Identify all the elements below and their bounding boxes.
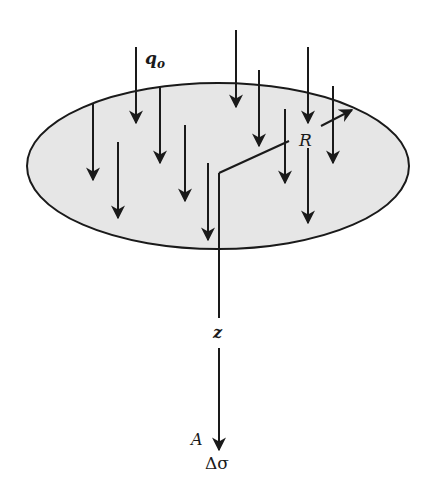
load-label: qo	[145, 48, 165, 71]
circular-load-diagram: qo R z A Δσ	[0, 0, 429, 493]
radius-label: R	[298, 130, 312, 150]
point-label: A	[189, 430, 203, 449]
depth-label: z	[212, 323, 223, 342]
stress-label: Δσ	[205, 453, 229, 473]
